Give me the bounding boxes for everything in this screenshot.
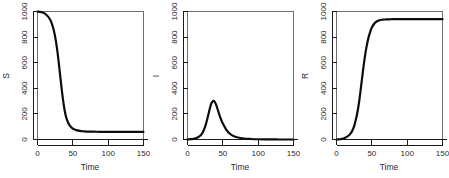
y-tick-label: 1000: [20, 2, 29, 20]
panel-susceptible-y-axis: 02004006008001000 S: [1, 2, 38, 142]
curve-susceptible: [38, 12, 144, 132]
y-tick-label: 800: [170, 30, 179, 44]
y-tick-label: 800: [319, 30, 328, 44]
y-tick-label: 1000: [170, 2, 179, 20]
y-tick-labels: 02004006008001000: [170, 2, 179, 142]
curve-infected: [188, 101, 294, 140]
panel-susceptible-x-axis: 050100150 Time: [35, 140, 150, 172]
y-tick-label: 600: [20, 55, 29, 69]
y-tick-label: 600: [319, 55, 328, 69]
y-tick-label: 400: [319, 81, 328, 95]
x-axis-title: Time: [81, 162, 100, 172]
panel-infected-canvas: 02004006008001000 I 050100150 Time: [150, 0, 300, 178]
x-tick-label: 150: [137, 149, 150, 158]
x-axis-title: Time: [231, 162, 250, 172]
plot-frame: [188, 12, 294, 140]
curve-recovered: [337, 19, 443, 139]
y-tick-label: 1000: [319, 2, 328, 20]
y-tick-label: 0: [170, 137, 179, 142]
panel-recovered-plot-area: [337, 12, 447, 140]
x-tick-labels: 050100150: [334, 149, 449, 158]
x-tick-label: 100: [400, 149, 414, 158]
sir-model-figure: 02004006008001000 S 050100150 Time 02004…: [0, 0, 449, 178]
x-tick-label: 50: [218, 149, 227, 158]
x-tick-label: 0: [185, 149, 190, 158]
y-tick-label: 800: [20, 30, 29, 44]
x-tick-labels: 050100150: [185, 149, 300, 158]
panel-infected-plot-area: [188, 12, 298, 140]
x-tick-label: 50: [367, 149, 376, 158]
y-tick-label: 200: [20, 107, 29, 121]
y-tick-label: 200: [170, 107, 179, 121]
panel-infected-y-axis: 02004006008001000 I: [151, 2, 188, 142]
panel-susceptible: 02004006008001000 S 050100150 Time: [0, 0, 150, 178]
x-tick-label: 0: [334, 149, 339, 158]
y-tick-label: 600: [170, 55, 179, 69]
panel-recovered-x-axis: 050100150 Time: [334, 140, 449, 172]
y-axis-title: R: [300, 73, 310, 79]
x-tick-label: 50: [68, 149, 77, 158]
y-tick-label: 0: [319, 137, 328, 142]
panel-recovered: 02004006008001000 R 050100150 Time: [299, 0, 449, 178]
panel-susceptible-plot-area: [38, 12, 148, 140]
panel-recovered-canvas: 02004006008001000 R 050100150 Time: [299, 0, 449, 178]
plot-frame: [337, 12, 443, 140]
panel-recovered-y-axis: 02004006008001000 R: [300, 2, 337, 142]
x-axis-line: [337, 140, 443, 145]
x-tick-label: 100: [101, 149, 115, 158]
y-tick-labels: 02004006008001000: [20, 2, 29, 142]
y-axis-title: S: [1, 73, 11, 79]
y-tick-label: 400: [20, 81, 29, 95]
x-tick-label: 100: [251, 149, 265, 158]
panel-infected: 02004006008001000 I 050100150 Time: [150, 0, 300, 178]
x-axis-line: [188, 140, 294, 145]
panel-susceptible-canvas: 02004006008001000 S 050100150 Time: [0, 0, 150, 178]
y-tick-label: 0: [20, 137, 29, 142]
y-axis-title: I: [151, 75, 161, 77]
y-tick-label: 400: [170, 81, 179, 95]
x-axis-title: Time: [380, 162, 399, 172]
panel-infected-x-axis: 050100150 Time: [185, 140, 300, 172]
x-axis-line: [38, 140, 144, 145]
x-tick-label: 150: [436, 149, 449, 158]
y-tick-labels: 02004006008001000: [319, 2, 328, 142]
y-tick-label: 200: [319, 107, 328, 121]
x-tick-labels: 050100150: [35, 149, 150, 158]
x-tick-label: 0: [35, 149, 40, 158]
